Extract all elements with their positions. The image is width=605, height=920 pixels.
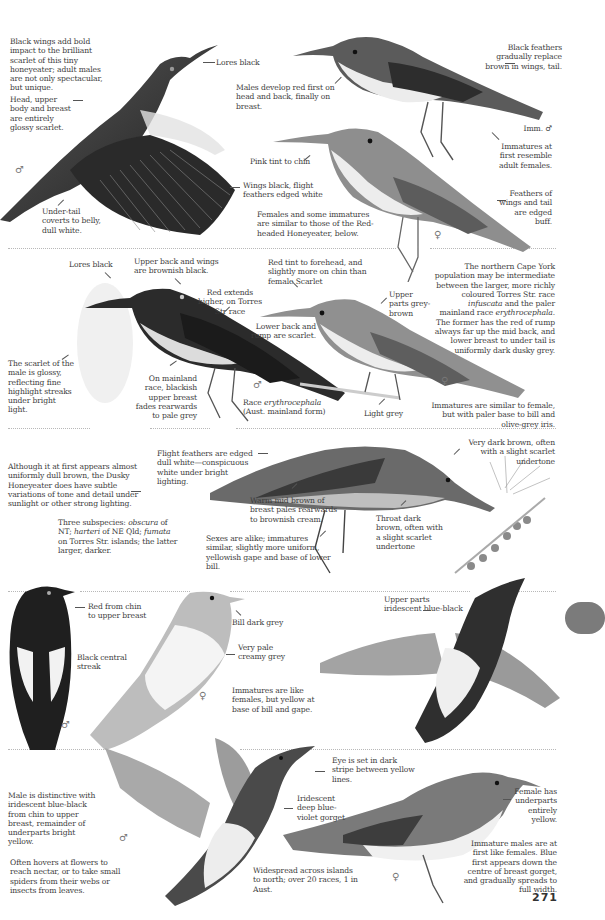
sunbird-hovers-text: Often hovers at flowers to reach nectar,… [10, 858, 130, 895]
sunbird-eye-label: Eye is set in dark stripe between yellow… [332, 756, 417, 784]
redheaded-cape-york-text: The northern Cape York population may be… [432, 262, 555, 355]
female-symbol: ♀ [441, 375, 448, 386]
redheaded-immatures-text: Immatures are similar to female, but wit… [420, 401, 555, 429]
scarlet-females-some-label: Females and some immatures are similar t… [257, 210, 382, 238]
male-symbol: ♂ [61, 719, 70, 730]
sunbird-imm-males-text: Immature males are at first like females… [460, 839, 557, 895]
dusky-subspecies-text: Three subspecies: obscura of NT; harteri… [58, 518, 178, 555]
leader-line [226, 654, 235, 655]
scarlet-pink-tint-label: Pink tint to chin [250, 157, 320, 166]
sunbird-widespread-label: Widespread across islands to north; over… [253, 866, 358, 894]
redheaded-lower-back-label: Lower back and rump are scarlet. [250, 322, 316, 341]
page-number: 271 [532, 891, 558, 904]
leader-line [131, 491, 141, 492]
section-divider [8, 428, 90, 429]
dusky-flight-label: Flight feathers are edged dull white—con… [157, 449, 257, 486]
scarlet-intro-text: Black wings add bold impact to the brill… [10, 37, 110, 93]
race-name: erythrocephala [264, 398, 321, 407]
leader-line [503, 799, 511, 800]
sunbird-male-text: Male is distinctive with iridescent blue… [8, 791, 98, 847]
dusky-throat-label: Throat dark brown, often with a slight s… [376, 514, 444, 551]
scarlet-black-feathers-label: Black feathers gradually replace brown i… [470, 43, 562, 71]
race-prefix: Race [243, 398, 264, 407]
redheaded-upper-back-label: Upper back and wings are brownish black. [134, 257, 219, 276]
scarlet-males-develop-label: Males develop red first on head and back… [236, 83, 351, 111]
scarlet-undertail-label: Under-tail coverts to belly, dull white. [42, 207, 102, 235]
sunbird-female-has-label: Female has underparts entirely yellow. [505, 787, 557, 824]
banded-black-streak-label: Black central streak [77, 653, 132, 672]
female-symbol: ♀ [392, 871, 399, 882]
redheaded-lores-label: Lores black [69, 260, 119, 269]
leader-line [315, 771, 325, 772]
redheaded-red-tint-label: Red tint to forehead, and slightly more … [268, 258, 388, 286]
scarlet-head-label: Head, upper body and breast are entirely… [10, 95, 72, 132]
male-symbol: ♂ [15, 164, 24, 175]
leader-line [505, 63, 515, 64]
redheaded-race-label: Race erythrocephala (Aust. mainland form… [243, 398, 333, 417]
dusky-although-text: Although it at first appears almost unif… [8, 462, 143, 508]
female-symbol: ♀ [434, 229, 441, 240]
race-suffix: (Aust. mainland form) [243, 407, 325, 416]
dusky-warm-label: Warm mid brown of breast pales rearwards… [250, 496, 340, 524]
leader-line [284, 808, 293, 809]
redheaded-upper-parts-label: Upper parts grey-brown [389, 290, 434, 318]
leader-line [75, 607, 85, 608]
male-symbol: ♂ [119, 832, 128, 843]
leader-line [73, 100, 83, 101]
leader-line [497, 200, 506, 201]
scarlet-lores-label: Lores black [216, 58, 276, 67]
leader-line [230, 187, 240, 188]
leader-line [258, 453, 268, 454]
banded-red-chin-label: Red from chin to upper breast [88, 602, 148, 621]
scarlet-wings-label: Wings black, flight feathers edged white [243, 181, 333, 200]
leader-line [203, 62, 215, 63]
redheaded-scarlet-glossy-label: The scarlet of the male is glossy, refle… [8, 359, 74, 415]
male-symbol: ♂ [253, 379, 262, 390]
banded-bill-label: Bill dark grey [232, 618, 292, 627]
section-divider [150, 428, 210, 429]
scarlet-imm-male-label: Imm. ♂ [500, 124, 552, 133]
section-thumb-tab [565, 602, 605, 634]
scarlet-imm-resemble-label: Immatures at first resemble adult female… [490, 142, 552, 170]
redheaded-red-extends-label: Red extends higher, on Torres Str race [195, 288, 265, 316]
scarlet-feathers-edged-label: Feathers of wings and tail are edged buf… [496, 189, 552, 226]
banded-immatures-label: Immatures are like females, but yellow a… [232, 686, 317, 714]
redheaded-mainland-label: On mainland race, blackish upper breast … [132, 374, 197, 420]
female-symbol: ♀ [199, 690, 206, 701]
dusky-sexes-label: Sexes are alike; immatures similar, slig… [206, 534, 336, 571]
leader-line [105, 272, 111, 278]
redheaded-light-grey-label: Light grey [364, 409, 409, 418]
banded-very-pale-label: Very pale creamy grey [238, 643, 293, 662]
dusky-very-dark-label: Very dark brown, often with a slight sca… [460, 438, 555, 466]
leader-line [423, 610, 431, 611]
sunbird-iridescent-label: Iridescent deep blue-violet gorget [297, 794, 352, 822]
